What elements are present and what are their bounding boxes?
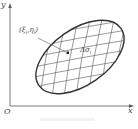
double-integral-partition-diagram: [0, 0, 138, 129]
area-label-delta-sigma: Δσ: [80, 46, 90, 54]
point-label-xi: (ξ: [19, 26, 26, 34]
x-axis-label: x: [128, 107, 133, 115]
origin-label: O: [4, 108, 11, 116]
region-boundary: [23, 5, 137, 108]
sample-point: [67, 52, 70, 55]
y-axis-arrow-icon: [8, 3, 11, 8]
figure-caption: [40, 118, 95, 121]
area-element-label: Δσi: [80, 47, 91, 55]
point-label: (ξi,ηi): [19, 27, 38, 35]
leader-line: [38, 38, 66, 52]
point-label-close: ): [35, 26, 38, 34]
y-axis-label: y: [1, 1, 6, 9]
area-label-sub: i: [90, 49, 92, 55]
